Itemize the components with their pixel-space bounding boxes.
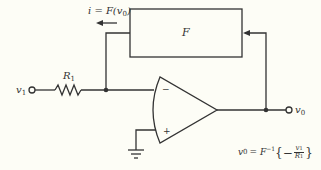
equation-mid: = F — [250, 148, 267, 157]
output-label-sub: 0 — [301, 109, 305, 117]
output-terminal — [286, 107, 292, 113]
opamp-minus-text: − — [162, 84, 170, 94]
input-label: v1 — [16, 85, 26, 97]
block-f-text: F — [182, 26, 190, 39]
resistor-r1 — [55, 85, 81, 95]
input-label-sub: 1 — [22, 89, 26, 97]
junction-node-input — [104, 88, 109, 93]
resistor-label-text: R — [63, 70, 71, 81]
current-label-end: ) — [127, 5, 131, 16]
equation-denominator: R1 — [294, 153, 304, 160]
opamp-minus-sign: − — [162, 85, 170, 94]
equation-sup: −1 — [266, 146, 275, 152]
current-arrow-head — [96, 20, 103, 26]
junction-node-output — [264, 108, 269, 113]
transfer-equation: v0 = F−1{− v1 R1 } — [238, 145, 313, 160]
resistor-label: R1 — [63, 71, 75, 83]
ground-wire — [136, 130, 156, 150]
equation-num-sub: 1 — [299, 145, 302, 151]
input-terminal — [29, 87, 35, 93]
current-label-text: i = F(v — [88, 5, 122, 16]
current-label: i = F(v0) — [88, 6, 131, 18]
equation-close: } — [305, 147, 313, 159]
opamp-plus-sign: + — [163, 127, 171, 136]
opamp-plus-text: + — [163, 126, 171, 136]
block-f-label: F — [182, 27, 190, 38]
feedback-arrow-head — [243, 30, 250, 36]
equation-den-sub: 1 — [300, 153, 303, 159]
equation-lhs-sub: 0 — [243, 149, 247, 156]
resistor-label-sub: 1 — [71, 75, 75, 83]
equation-fraction: v1 R1 — [294, 145, 304, 160]
equation-open: {− — [275, 147, 293, 159]
feedback-wire-left — [106, 33, 130, 90]
output-label: v0 — [295, 105, 305, 117]
feedback-wire-right — [245, 33, 266, 110]
